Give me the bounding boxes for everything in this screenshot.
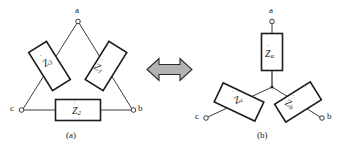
delta-terminal-a-node bbox=[76, 19, 81, 24]
impedance-zb-box bbox=[275, 82, 322, 122]
impedance-za-symbol: Z bbox=[265, 48, 271, 59]
wye-terminal-c-label: c bbox=[195, 112, 199, 121]
delta-wye-transformation-figure: a c b ˙Z3 ˙Z1 ˙Z2 (a) a c b ˙Za ˙Zc ˙Zb … bbox=[0, 0, 337, 149]
delta-terminal-c-node bbox=[19, 108, 24, 113]
impedance-zb-box-group bbox=[275, 82, 322, 122]
wye-terminal-b-label: b bbox=[327, 112, 332, 121]
wye-terminal-a-label: a bbox=[269, 6, 273, 15]
wye-terminal-a-node bbox=[270, 19, 275, 24]
delta-terminal-a-label: a bbox=[75, 6, 79, 15]
impedance-z1-box-group bbox=[85, 41, 127, 90]
wye-center-node bbox=[271, 86, 274, 89]
caption-b: (b) bbox=[257, 131, 268, 140]
impedance-za-subscript: a bbox=[271, 52, 274, 59]
impedance-z1-box bbox=[85, 41, 127, 90]
wye-terminal-b-node bbox=[320, 116, 325, 121]
figure-canvas bbox=[0, 0, 337, 149]
impedance-z2-subscript: 2 bbox=[78, 109, 81, 116]
delta-terminal-b-node bbox=[131, 108, 136, 113]
double-headed-arrow-shape bbox=[147, 59, 192, 81]
impedance-za-label: ˙Za bbox=[265, 46, 274, 60]
wye-terminal-c-node bbox=[204, 116, 209, 121]
double-headed-arrow bbox=[147, 59, 192, 81]
wye-connection bbox=[204, 19, 325, 122]
impedance-z2-label: ˙Z2 bbox=[72, 103, 81, 117]
delta-terminal-c-label: c bbox=[10, 104, 14, 113]
caption-a: (a) bbox=[66, 131, 76, 140]
impedance-z2-symbol: Z bbox=[72, 105, 78, 116]
delta-terminal-b-label: b bbox=[138, 104, 143, 113]
